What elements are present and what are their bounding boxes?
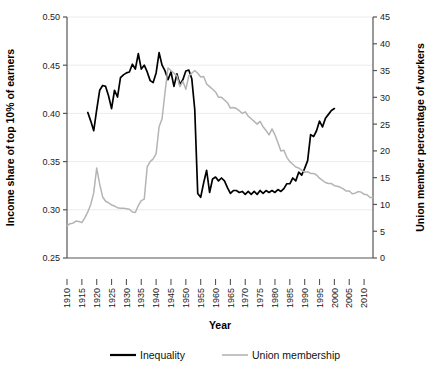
y-tick-label-right: 30 bbox=[380, 93, 390, 103]
y-tick-label-right: 25 bbox=[380, 120, 390, 130]
x-tick-label: 1980 bbox=[270, 288, 280, 308]
series-line-inequality bbox=[88, 53, 335, 198]
y-axis-left-title: Income share of top 10% of earners bbox=[4, 49, 16, 227]
x-tick-label: 1920 bbox=[92, 288, 102, 308]
y-tick-label-right: 10 bbox=[380, 200, 390, 210]
y-tick-label-right: 35 bbox=[380, 66, 390, 76]
x-tick-label: 2000 bbox=[330, 288, 340, 308]
series-group bbox=[67, 53, 373, 226]
y-tick-label-left: 0.50 bbox=[42, 12, 60, 22]
x-tick-label: 1955 bbox=[196, 288, 206, 308]
x-tick-label: 1965 bbox=[226, 288, 236, 308]
y-axis-left-ticks: 0.250.300.350.400.450.50 bbox=[42, 12, 67, 263]
x-tick-label: 1950 bbox=[181, 288, 191, 308]
x-axis-ticks: 1910191519201925193019351940194519501955… bbox=[62, 279, 369, 308]
y-tick-label-right: 40 bbox=[380, 39, 390, 49]
y-tick-label-right: 15 bbox=[380, 173, 390, 183]
x-tick-label: 1985 bbox=[285, 288, 295, 308]
x-tick-label: 1975 bbox=[255, 288, 265, 308]
x-tick-label: 1935 bbox=[136, 288, 146, 308]
x-axis-title: Year bbox=[209, 319, 231, 331]
y-tick-label-right: 0 bbox=[380, 253, 385, 263]
x-tick-label: 1995 bbox=[315, 288, 325, 308]
x-tick-label: 2005 bbox=[344, 288, 354, 308]
x-tick-label: 1945 bbox=[166, 288, 176, 308]
x-tick-label: 2010 bbox=[359, 288, 369, 308]
y-tick-label-right: 20 bbox=[380, 146, 390, 156]
y-tick-label-left: 0.40 bbox=[42, 109, 60, 119]
x-tick-label: 1925 bbox=[107, 288, 117, 308]
chart-svg: 0.250.300.350.400.450.500510152025303540… bbox=[0, 0, 435, 372]
y-tick-label-left: 0.30 bbox=[42, 205, 60, 215]
grid-lines bbox=[67, 17, 373, 210]
y-tick-label-left: 0.35 bbox=[42, 157, 60, 167]
series-line-union-membership bbox=[67, 68, 373, 226]
x-tick-label: 1960 bbox=[211, 288, 221, 308]
chart-legend: InequalityUnion membership bbox=[110, 349, 340, 361]
y-axis-right-ticks: 051015202530354045 bbox=[373, 12, 390, 263]
x-tick-label: 1910 bbox=[62, 288, 72, 308]
y-tick-label-right: 45 bbox=[380, 12, 390, 22]
y-tick-label-left: 0.25 bbox=[42, 253, 60, 263]
x-tick-label: 1940 bbox=[151, 288, 161, 308]
x-tick-label: 1930 bbox=[122, 288, 132, 308]
x-tick-label: 1990 bbox=[300, 288, 310, 308]
y-axis-right-title: Union member percentage of workers bbox=[414, 43, 426, 232]
x-tick-label: 1915 bbox=[77, 288, 87, 308]
y-tick-label-left: 0.45 bbox=[42, 61, 60, 71]
legend-label-1: Union membership bbox=[252, 349, 340, 361]
legend-label-0: Inequality bbox=[140, 349, 186, 361]
x-tick-label: 1970 bbox=[240, 288, 250, 308]
chart-figure: 0.250.300.350.400.450.500510152025303540… bbox=[0, 0, 435, 372]
y-tick-label-right: 5 bbox=[380, 227, 385, 237]
